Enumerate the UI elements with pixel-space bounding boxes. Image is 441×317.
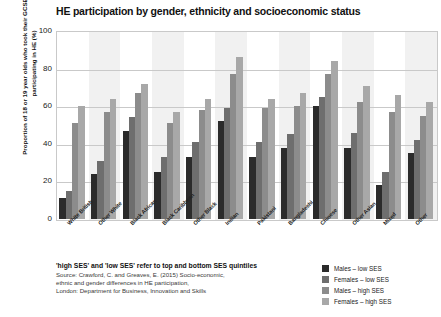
bar: [78, 106, 85, 219]
legend-label: Males – high SES: [334, 287, 384, 294]
bar: [363, 86, 370, 219]
bar: [395, 95, 402, 219]
footnote: 'high SES' and 'low SES' refer to top an…: [56, 262, 286, 296]
legend-swatch: [322, 298, 329, 305]
legend-swatch: [322, 265, 329, 272]
source-citation: Source: Crawford, C. and Greaves, E. (20…: [56, 271, 286, 296]
legend-label: Females – high SES: [334, 298, 391, 305]
chart-title: HE participation by gender, ethnicity an…: [56, 5, 436, 17]
legend-item: Females – low SES: [322, 274, 391, 285]
source-line: London: Department for Business, Innovat…: [56, 287, 286, 295]
bars-layer: [56, 31, 436, 219]
y-tick-label: 0: [30, 214, 52, 223]
bar: [141, 84, 148, 219]
legend-swatch: [322, 276, 329, 283]
bar: [236, 57, 243, 219]
bar: [110, 99, 117, 219]
y-tick-label: 20: [30, 176, 52, 185]
y-axis-title: Proportion of 18 or 19 year olds who too…: [21, 0, 38, 159]
x-axis-ticks: White BritishOther WhiteBlack AfricanBla…: [56, 220, 441, 260]
footnote-headline: 'high SES' and 'low SES' refer to top an…: [56, 262, 286, 269]
bar: [268, 99, 275, 219]
legend-item: Males – low SES: [322, 263, 391, 274]
y-tick-label: 100: [30, 26, 52, 35]
legend-label: Males – low SES: [334, 265, 382, 272]
bar: [205, 99, 212, 219]
bar: [426, 102, 433, 219]
y-tick-label: 80: [30, 64, 52, 73]
source-line: ethnic and gender differences in HE part…: [56, 279, 286, 287]
source-line: Source: Crawford, C. and Greaves, E. (20…: [56, 271, 286, 279]
bar: [300, 93, 307, 219]
legend-label: Females – low SES: [334, 276, 389, 283]
y-tick-label: 40: [30, 139, 52, 148]
bar: [331, 61, 338, 219]
chart-legend: Males – low SESFemales – low SESMales – …: [322, 263, 391, 307]
legend-item: Males – high SES: [322, 285, 391, 296]
legend-item: Females – high SES: [322, 296, 391, 307]
legend-swatch: [322, 287, 329, 294]
y-tick-label: 60: [30, 101, 52, 110]
